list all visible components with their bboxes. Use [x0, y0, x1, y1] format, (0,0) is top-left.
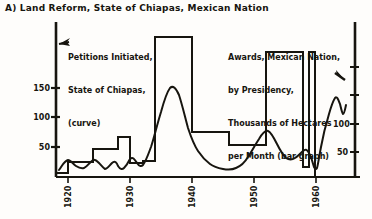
arrow-up-left-icon [59, 38, 70, 46]
awards-step-bar-series [56, 37, 315, 177]
figure-panel: A) Land Reform, State of Chiapas, Mexica… [0, 0, 372, 219]
plot-area [0, 0, 372, 219]
arrow-down-right-icon [333, 70, 345, 80]
